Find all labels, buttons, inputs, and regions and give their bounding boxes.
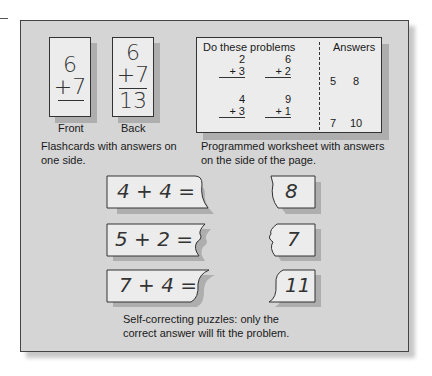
flashcard-caption: Flashcards with answers on one side. <box>41 139 201 167</box>
worksheet-answer: 8 <box>353 75 359 88</box>
puzzle-answer-piece: 8 <box>271 176 315 210</box>
worksheet-problem: 9 + 1 <box>265 93 291 118</box>
flashcard-front-label: Front <box>58 121 84 135</box>
worksheet-problem: 4 + 3 <box>219 93 245 118</box>
puzzle-answer-piece: 11 <box>269 270 315 304</box>
worksheet-answer: 5 <box>330 75 336 88</box>
flashcard-front: 6 +7 <box>49 37 91 117</box>
worksheet-answer: 7 <box>330 117 336 130</box>
worksheet-divider <box>319 42 320 130</box>
margin-tick <box>0 18 8 19</box>
flashcard-front-rule <box>58 100 84 101</box>
worksheet-problem: 2 + 3 <box>219 53 245 78</box>
worksheet-problem: 6 + 2 <box>265 53 291 78</box>
puzzle-answer-piece: 7 <box>269 224 315 258</box>
flashcard-back-answer: 13 <box>113 88 153 113</box>
worksheet-header-answers: Answers <box>333 41 375 54</box>
worksheet-caption: Programmed worksheet with answers on the… <box>201 139 401 167</box>
figure-panel: 6 +7 Front 6 +7 13 Back Flashcards with … <box>20 20 409 352</box>
puzzle-problem-piece: 4 + 4 = <box>107 176 207 210</box>
worksheet-answer: 10 <box>350 117 362 130</box>
flashcard-back-label: Back <box>121 121 145 135</box>
puzzle-problem-piece: 7 + 4 = <box>107 270 207 304</box>
programmed-worksheet: Do these problems Answers 2 + 3 6 + 2 4 … <box>196 37 382 133</box>
puzzle-problem-piece: 5 + 2 = <box>107 224 207 258</box>
flashcard-front-bottom: +7 <box>50 74 90 99</box>
flashcard-back-bottom: +7 <box>113 62 153 87</box>
puzzles-caption: Self-correcting puzzles: only the correc… <box>123 312 343 340</box>
flashcard-back: 6 +7 13 <box>112 37 154 117</box>
